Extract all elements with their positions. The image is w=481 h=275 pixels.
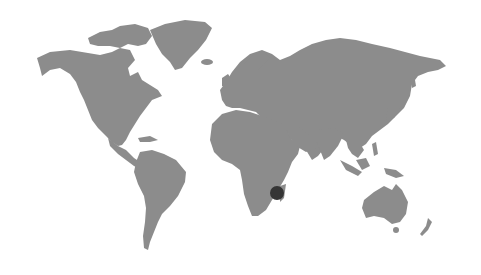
borneo <box>356 158 370 170</box>
new-guinea <box>384 168 404 178</box>
world-map-svg <box>0 0 481 275</box>
canadian-arctic-islands <box>88 24 152 48</box>
philippines <box>372 142 378 156</box>
continent-south-america <box>134 150 186 250</box>
continent-australia <box>362 184 408 224</box>
tasmania <box>393 227 399 233</box>
caribbean-islands <box>138 136 158 142</box>
indian-subcontinent <box>316 128 344 160</box>
world-map <box>0 0 481 275</box>
new-zealand <box>420 218 432 236</box>
continent-north-america <box>37 48 162 146</box>
location-marker[interactable] <box>270 186 284 200</box>
iceland <box>201 59 213 65</box>
